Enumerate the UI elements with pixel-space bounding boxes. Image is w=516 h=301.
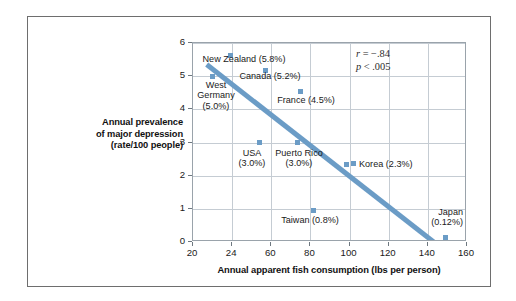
label-line: (0.12%) — [405, 217, 463, 227]
label-line: (3.0%) — [268, 158, 330, 168]
y-tick-mark-5 — [188, 75, 192, 76]
marker-west-germany — [210, 74, 215, 79]
label-line: Germany — [193, 90, 244, 100]
label-line: Puerto Rico — [268, 148, 330, 158]
label-line: Korea (2.3%) — [351, 159, 441, 169]
label-taiwan: Taiwan (0.8%) — [271, 215, 349, 225]
plot-area: New Zealand (5.8%)WestGermany(5.0%)Canad… — [192, 42, 466, 241]
marker-puerto-rico — [295, 140, 300, 145]
x-tick-label-24: 24 — [216, 247, 246, 258]
marker-korea — [344, 162, 349, 167]
r-value: = −.84 — [360, 48, 390, 59]
y-tick-mark-1 — [188, 208, 192, 209]
label-line: West — [193, 80, 244, 90]
x-tick-mark-60 — [270, 242, 271, 246]
x-tick-mark-140 — [427, 242, 428, 246]
y-axis-title-line-2: of major depression — [35, 129, 183, 141]
marker-taiwan — [311, 208, 316, 213]
x-tick-mark-100 — [349, 242, 350, 246]
label-line: France (4.5%) — [267, 95, 345, 105]
plot-inner: New Zealand (5.8%)WestGermany(5.0%)Canad… — [193, 43, 465, 240]
inline-marker-icon — [351, 161, 356, 166]
x-tick-mark-160 — [466, 242, 467, 246]
label-line: USA — [231, 148, 273, 158]
x-axis-title: Annual apparent fish consumption (lbs pe… — [192, 264, 466, 275]
label-line: Japan — [405, 207, 463, 217]
marker-france — [298, 89, 303, 94]
p-value: < .005 — [361, 61, 390, 72]
label-usa: USA(3.0%) — [231, 148, 273, 169]
x-tick-label-120: 120 — [373, 247, 403, 258]
x-tick-label-60: 60 — [255, 247, 285, 258]
x-tick-mark-20 — [192, 242, 193, 246]
x-tick-label-140: 140 — [412, 247, 442, 258]
y-tick-mark-3 — [188, 142, 192, 143]
label-line: (5.0%) — [193, 101, 244, 111]
y-axis-title: Annual prevalence of major depression (r… — [35, 117, 183, 152]
correlation-line: r = −.84 — [356, 48, 390, 61]
y-tick-label-2: 2 — [167, 169, 185, 180]
y-axis-title-line-1: Annual prevalence — [35, 117, 183, 129]
label-canada: Canada (5.2%) — [231, 71, 309, 81]
y-tick-mark-4 — [188, 108, 192, 109]
y-tick-mark-2 — [188, 175, 192, 176]
pvalue-line: p < .005 — [356, 61, 390, 74]
statistics-annotation: r = −.84 p < .005 — [356, 48, 390, 73]
label-puerto-rico: Puerto Rico(3.0%) — [268, 148, 330, 169]
label-line: Canada (5.2%) — [231, 71, 309, 81]
y-tick-label-0: 0 — [167, 235, 185, 246]
x-tick-label-20: 20 — [177, 247, 207, 258]
marker-japan — [443, 235, 448, 240]
y-tick-mark-6 — [188, 42, 192, 43]
label-line: Taiwan (0.8%) — [271, 215, 349, 225]
x-tick-mark-24 — [231, 242, 232, 246]
y-tick-label-6: 6 — [167, 36, 185, 47]
label-west-germany: WestGermany(5.0%) — [193, 80, 244, 111]
x-tick-label-100: 100 — [334, 247, 364, 258]
label-korea: Korea (2.3%) — [351, 159, 441, 169]
x-tick-mark-120 — [388, 242, 389, 246]
y-tick-label-1: 1 — [167, 202, 185, 213]
marker-usa — [257, 140, 262, 145]
label-line: (3.0%) — [231, 158, 273, 168]
y-tick-label-4: 4 — [167, 102, 185, 113]
label-line: New Zealand (5.8%) — [193, 54, 296, 64]
label-france: France (4.5%) — [267, 95, 345, 105]
label-new-zealand: New Zealand (5.8%) — [193, 54, 296, 64]
x-tick-mark-80 — [309, 242, 310, 246]
label-japan: Japan(0.12%) — [405, 207, 463, 228]
figure-container: Annual prevalence of major depression (r… — [0, 0, 516, 301]
y-tick-label-5: 5 — [167, 69, 185, 80]
y-tick-label-3: 3 — [167, 136, 185, 147]
x-tick-label-160: 160 — [451, 247, 481, 258]
x-tick-label-80: 80 — [294, 247, 324, 258]
y-axis-title-line-3: (rate/100 people) — [35, 140, 183, 152]
